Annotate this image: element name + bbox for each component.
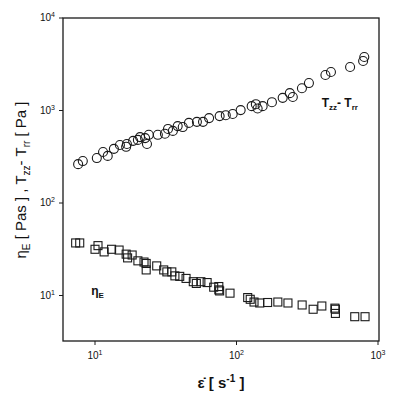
y-axis-ticks: 101102103104 xyxy=(40,11,63,301)
y-tick-label: 104 xyxy=(40,11,55,23)
x-tick-label: 103 xyxy=(370,349,385,361)
circle-marker xyxy=(304,79,313,88)
square-marker xyxy=(284,299,292,307)
y-axis-label: ηE [ Pas ] , Tzz- Trr [ Pa ] xyxy=(12,101,32,258)
y-tick-label: 103 xyxy=(40,104,55,116)
circle-marker xyxy=(236,106,245,115)
square-marker xyxy=(163,268,171,276)
data-series xyxy=(72,52,369,320)
square-marker xyxy=(309,305,317,313)
series-elongational-viscosity xyxy=(72,239,369,321)
square-marker xyxy=(226,289,234,297)
circle-marker xyxy=(326,67,335,76)
chart-container: 101102103 101102103104 Tzz- TrrηE ε̇ [ s… xyxy=(0,0,398,402)
x-axis-label: ε̇ [ s-1 ] xyxy=(198,373,245,391)
series-annotations: Tzz- TrrηE xyxy=(91,96,358,299)
y-tick-label: 101 xyxy=(40,289,55,301)
x-tick-label: 102 xyxy=(229,349,244,361)
circle-marker xyxy=(142,140,151,149)
square-marker xyxy=(361,313,369,321)
circle-marker xyxy=(215,112,224,121)
plot-frame xyxy=(63,18,379,341)
x-tick-label: 101 xyxy=(87,349,102,361)
square-marker xyxy=(108,245,116,253)
square-marker xyxy=(264,299,272,307)
plot-border xyxy=(63,18,379,341)
square-marker xyxy=(274,298,282,306)
x-axis-ticks: 101102103 xyxy=(87,341,385,361)
circle-marker xyxy=(321,70,330,79)
annotation-eta-e: ηE xyxy=(91,284,104,300)
square-marker xyxy=(318,302,326,310)
annotation-tzz-trr: Tzz- Trr xyxy=(322,96,358,112)
scatter-plot: 101102103 101102103104 Tzz- TrrηE ε̇ [ s… xyxy=(0,0,398,402)
series-normal-stress-difference xyxy=(74,52,369,168)
y-tick-label: 102 xyxy=(40,196,55,208)
square-marker xyxy=(298,301,306,309)
square-marker xyxy=(351,313,359,321)
circle-marker xyxy=(346,63,355,72)
circle-marker xyxy=(267,98,276,107)
circle-marker xyxy=(178,123,187,132)
